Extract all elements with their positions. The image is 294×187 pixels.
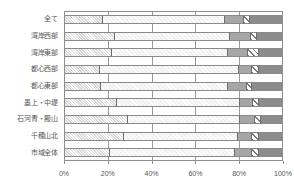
bar-segment [259, 98, 283, 107]
bar-row [64, 48, 283, 57]
tick-0 [64, 161, 65, 164]
category-label: 都心東部 [0, 82, 58, 90]
tick-20 [108, 161, 109, 164]
bar-segment [248, 48, 259, 57]
category-label: 全て [0, 15, 58, 23]
bar-segment [255, 115, 262, 124]
tick-40 [152, 161, 153, 164]
bar-segment [250, 15, 283, 24]
bar-segment [117, 98, 241, 107]
bar-segment [228, 82, 247, 91]
bar-segment [64, 98, 117, 107]
bar-segment [252, 132, 259, 141]
category-label: 湾岸東部 [0, 49, 58, 57]
tick-80 [239, 161, 240, 164]
bar-segment [225, 15, 244, 24]
bar-segment [252, 148, 259, 157]
stacked-bar-chart: 全て湾岸西部湾岸東部都心西部都心東部墨上・中堤石河青・殿山千穂山北市域全体 0%… [0, 0, 294, 187]
bar-segment [64, 65, 100, 74]
category-label: 千穂山北 [0, 132, 58, 140]
category-label: 市域全体 [0, 149, 58, 157]
bar-segment [64, 15, 103, 24]
bar-segment [259, 148, 283, 157]
bar-segment [64, 115, 128, 124]
category-label: 石河青・殿山 [0, 115, 58, 123]
bar-segment [100, 65, 239, 74]
bar-segment [112, 48, 228, 57]
bar-segment [103, 15, 225, 24]
bar-segment [257, 32, 283, 41]
x-tick-label: 0% [44, 170, 84, 178]
bar-row [64, 148, 283, 157]
bar-segment [115, 32, 230, 41]
bar-segment [240, 98, 253, 107]
bar-row [64, 32, 283, 41]
bar-segment [252, 82, 283, 91]
bar-segment [238, 132, 252, 141]
bar-segment [64, 132, 124, 141]
bar-segment [239, 65, 252, 74]
bar-segment [64, 32, 115, 41]
x-tick-label: 80% [219, 170, 259, 178]
bar-row [64, 82, 283, 91]
bar-segment [230, 32, 251, 41]
bar-segment [64, 48, 112, 57]
category-label: 墨上・中堤 [0, 99, 58, 107]
bar-segment [124, 132, 238, 141]
bar-segment [64, 82, 101, 91]
bar-segment [228, 48, 248, 57]
x-tick-label: 60% [175, 170, 215, 178]
bar-segment [110, 148, 235, 157]
x-tick-label: 20% [88, 170, 128, 178]
bar-row [64, 15, 283, 24]
bar-row [64, 65, 283, 74]
x-tick-label: 100% [263, 170, 294, 178]
bar-segment [128, 115, 241, 124]
bar-segment [252, 65, 259, 74]
bar-row [64, 115, 283, 124]
bar-segment [64, 148, 110, 157]
bar-segment [235, 148, 253, 157]
category-label: 都心西部 [0, 65, 58, 73]
bar-segment [261, 115, 283, 124]
bar-segment [259, 65, 283, 74]
x-tick-label: 40% [132, 170, 172, 178]
category-label: 湾岸西部 [0, 32, 58, 40]
bar-segment [259, 48, 283, 57]
bar-row [64, 132, 283, 141]
tick-100 [283, 161, 284, 164]
bar-row [64, 98, 283, 107]
bar-segment [240, 115, 254, 124]
bar-segment [101, 82, 228, 91]
tick-60 [195, 161, 196, 164]
bar-segment [259, 132, 283, 141]
